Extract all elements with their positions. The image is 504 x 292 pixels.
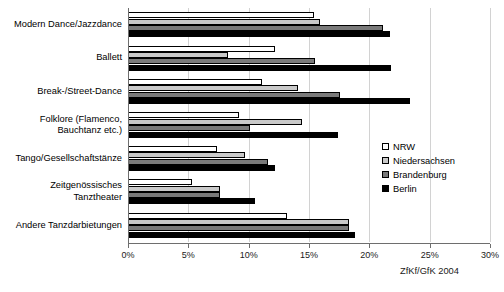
bar [128, 46, 275, 52]
category-label: Tango/Gesellschaftstänze [2, 153, 122, 165]
legend-swatch-icon [382, 157, 389, 164]
category-label: Folklore (Flamenco, Bauchtanz etc.) [2, 114, 122, 137]
y-axis-line [128, 8, 129, 244]
bar-group [128, 12, 490, 37]
x-tick-label: 30% [470, 250, 504, 260]
legend-item: NRW [382, 140, 455, 153]
bar [128, 232, 355, 238]
legend-label: Brandenburg [393, 170, 447, 180]
bar [128, 12, 314, 18]
bar [128, 52, 228, 58]
legend-swatch-icon [382, 185, 389, 192]
category-label: Zeitgenössisches Tanztheater [2, 180, 122, 203]
category-label: Break-/Street-Dance [2, 86, 122, 98]
bar [128, 198, 255, 204]
category-label: Andere Tanzdarbietungen [2, 220, 122, 232]
bar [128, 125, 250, 131]
bar-group [128, 112, 490, 137]
bar-group [128, 46, 490, 71]
x-tick-mark [430, 244, 431, 248]
bar [128, 146, 217, 152]
legend-label: Berlin [393, 184, 417, 194]
x-tick-label: 10% [229, 250, 269, 260]
legend-swatch-icon [382, 171, 389, 178]
bar-group [128, 213, 490, 238]
bar [128, 132, 338, 138]
x-tick-mark [369, 244, 370, 248]
category-label: Ballett [2, 52, 122, 64]
bar [128, 65, 391, 71]
x-tick-label: 5% [168, 250, 208, 260]
bar [128, 159, 268, 165]
bar [128, 79, 262, 85]
bar [128, 85, 298, 91]
x-tick-mark [128, 244, 129, 248]
legend-label: NRW [393, 142, 415, 152]
chart-legend: NRWNiedersachsenBrandenburgBerlin [382, 140, 455, 196]
bar [128, 25, 383, 31]
x-tick-mark [490, 244, 491, 248]
gridline [490, 8, 491, 242]
bar [128, 192, 220, 198]
legend-item: Niedersachsen [382, 154, 455, 167]
legend-item: Brandenburg [382, 168, 455, 181]
bar [128, 112, 239, 118]
legend-swatch-icon [382, 143, 389, 150]
legend-label: Niedersachsen [393, 156, 455, 166]
bar [128, 19, 320, 25]
x-tick-label: 0% [108, 250, 148, 260]
x-tick-label: 20% [349, 250, 389, 260]
category-label: Modern Dance/Jazzdance [2, 19, 122, 31]
bar [128, 213, 287, 219]
x-tick-mark [188, 244, 189, 248]
x-tick-label: 25% [410, 250, 450, 260]
x-tick-mark [309, 244, 310, 248]
bar [128, 92, 340, 98]
bar [128, 179, 192, 185]
bar [128, 165, 275, 171]
plot-area [128, 8, 490, 242]
source-note: ZfKf/GfK 2004 [400, 266, 459, 276]
bar [128, 152, 245, 158]
bar [128, 225, 349, 231]
bar [128, 98, 410, 104]
x-tick-label: 15% [289, 250, 329, 260]
bar [128, 58, 315, 64]
bar [128, 31, 390, 37]
bar [128, 186, 220, 192]
bar [128, 219, 349, 225]
bar-group [128, 79, 490, 104]
x-tick-mark [249, 244, 250, 248]
legend-item: Berlin [382, 182, 455, 195]
bar [128, 119, 302, 125]
